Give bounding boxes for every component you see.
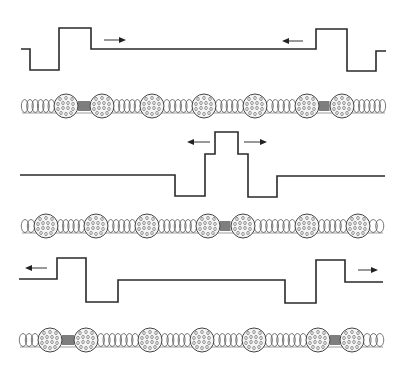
nucleosome-icon (242, 328, 266, 352)
nucleosome-icon (243, 94, 267, 118)
panel-1 (21, 28, 386, 118)
coil-icon (97, 334, 138, 347)
nucleosome-icon (138, 328, 162, 352)
compacted-linker (62, 335, 74, 345)
signal-waveform (21, 28, 386, 71)
nucleosome-icon (140, 94, 164, 118)
compacted-linker (330, 335, 340, 345)
arrow-left-icon (25, 265, 47, 271)
nucleosome-icon (346, 214, 370, 238)
compacted-linker (220, 221, 231, 231)
coil-icon (363, 334, 384, 347)
coil-icon (265, 334, 306, 347)
nucleosome-icon (231, 214, 255, 238)
coil-icon (57, 220, 84, 233)
coil-icon (113, 100, 140, 113)
coil-icon (21, 100, 54, 113)
nucleosome-icon (196, 214, 220, 238)
chromatin-fiber (21, 94, 385, 118)
nucleosome-icon (330, 94, 354, 118)
coil-icon (21, 220, 34, 233)
nucleosome-icon (340, 328, 364, 352)
coil-icon (161, 334, 190, 347)
arrow-left-icon (282, 38, 303, 44)
coil-icon (19, 334, 38, 347)
nucleosome-icon (135, 214, 159, 238)
arrow-right-icon (104, 37, 126, 43)
panel-3 (19, 258, 384, 352)
arrow-right-icon (244, 139, 267, 145)
coil-icon (107, 220, 135, 233)
signal-waveform (19, 258, 383, 303)
nucleosome-icon (38, 328, 62, 352)
coil-icon (318, 220, 346, 233)
nucleosome-icon (54, 94, 78, 118)
panel-2 (20, 132, 385, 238)
nucleosome-icon (295, 214, 319, 238)
coil-icon (215, 100, 243, 113)
coil-icon (213, 334, 242, 347)
nucleosome-icon (192, 94, 216, 118)
chromatin-fiber (21, 214, 384, 238)
nucleosome-icon (34, 214, 58, 238)
coil-icon (163, 100, 192, 113)
nucleosome-icon (295, 94, 319, 118)
arrow-right-icon (358, 267, 378, 273)
coil-icon (266, 100, 295, 113)
nucleosome-icon (190, 328, 214, 352)
coil-icon (254, 220, 295, 233)
nucleosome-icon (74, 328, 98, 352)
chromatin-fiber (19, 328, 383, 352)
nucleosome-icon (84, 214, 108, 238)
compacted-linker (319, 101, 330, 111)
coil-icon (353, 100, 385, 113)
compacted-linker (78, 101, 90, 111)
nucleosome-icon (90, 94, 114, 118)
nucleosome-icon (306, 328, 330, 352)
coil-icon (158, 220, 196, 233)
arrow-left-icon (187, 139, 210, 145)
coil-icon (369, 220, 384, 233)
chromatin-wave-diagram (0, 0, 408, 370)
